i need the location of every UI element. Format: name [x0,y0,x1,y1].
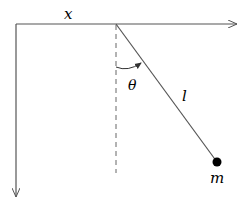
x-axis-label: x [64,5,73,23]
length-label: l [182,87,187,105]
pendulum-string [116,24,217,162]
pendulum-bob [213,158,222,167]
mass-label: m [210,169,224,187]
angle-label: θ [128,77,137,93]
pendulum-diagram: x θ l m [0,0,244,203]
angle-arc-icon [116,63,141,69]
